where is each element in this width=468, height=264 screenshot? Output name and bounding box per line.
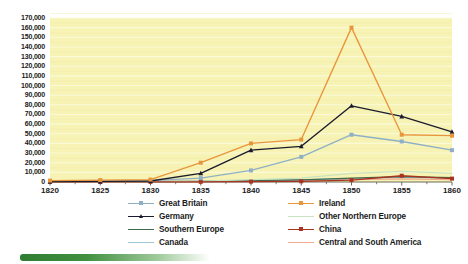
legend-item-southern-europe[interactable]: Southern Europe [128, 224, 224, 235]
legend-swatch-icon [128, 238, 154, 248]
legend-label: Germany [159, 212, 194, 221]
legend-label: Southern Europe [159, 225, 224, 234]
legend-label: Central and South America [319, 238, 421, 247]
legend-item-central-and-south-america[interactable]: Central and South America [288, 237, 421, 248]
legend-item-china[interactable]: China [288, 224, 341, 235]
x-tick-label: 1825 [91, 186, 109, 195]
legend-label: China [319, 225, 341, 234]
x-tick-label: 1830 [142, 186, 160, 195]
legend-label: Other Northern Europe [319, 212, 406, 221]
legend-label: Ireland [319, 199, 345, 208]
legend-item-ireland[interactable]: Ireland [288, 198, 345, 209]
decorative-footer-bar [20, 254, 210, 261]
immigration-line-chart: 010,00020,00030,00040,00050,00060,00070,… [0, 0, 468, 264]
legend-swatch-icon [288, 212, 314, 222]
legend-swatch-icon [288, 199, 314, 209]
x-tick-label: 1860 [443, 186, 461, 195]
x-tick-label: 1835 [192, 186, 210, 195]
legend-swatch-icon [288, 225, 314, 235]
legend-swatch-icon [128, 225, 154, 235]
chart-legend: Great BritainIrelandGermanyOther Norther… [0, 198, 468, 250]
legend-swatch-icon [288, 238, 314, 248]
x-tick-label: 1840 [242, 186, 260, 195]
x-tick-label: 1820 [41, 186, 59, 195]
x-tick-label: 1850 [343, 186, 361, 195]
legend-label: Great Britain [159, 199, 207, 208]
x-axis: 182018251830183518401845185018551860 [0, 182, 468, 198]
legend-item-other-northern-europe[interactable]: Other Northern Europe [288, 211, 406, 222]
legend-swatch-icon [128, 212, 154, 222]
plot-area: 010,00020,00030,00040,00050,00060,00070,… [0, 0, 468, 196]
legend-label: Canada [159, 238, 188, 247]
x-tick-label: 1845 [292, 186, 310, 195]
legend-item-germany[interactable]: Germany [128, 211, 194, 222]
legend-item-canada[interactable]: Canada [128, 237, 188, 248]
legend-swatch-icon [128, 199, 154, 209]
legend-item-great-britain[interactable]: Great Britain [128, 198, 207, 209]
plot-canvas [0, 0, 468, 196]
x-tick-label: 1855 [393, 186, 411, 195]
